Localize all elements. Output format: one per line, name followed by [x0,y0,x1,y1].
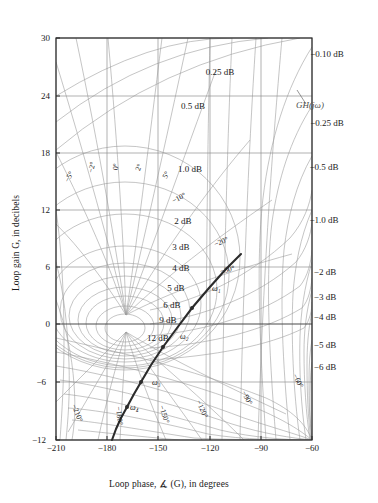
plot-background [56,38,312,440]
label-m-025db: 0.25 dB [206,67,235,77]
label-m-3db: 3 dB [172,242,189,252]
label-m-5db: 5 dB [167,283,184,293]
xtick-label-neg180: −180 [90,443,124,453]
xtick-label-neg210: −210 [39,443,73,453]
label-m-neg010db: −0.10 dB [310,49,344,59]
omega-2-dot [161,345,165,349]
xtick-label-neg120: −120 [193,443,227,453]
label-m-neg2db: −2 dB [314,267,336,277]
omega-1-dot [190,306,194,310]
label-m-4db: 4 dB [172,263,189,273]
label-omega-2: ω₂ [180,332,189,341]
label-m-2db: 2 dB [174,216,191,226]
omega-4-dot [125,405,129,409]
label-m-9db: 9 dB [159,315,176,325]
ytick-label-18: 18 [24,148,50,158]
y-axis-label: Loop gain G, in decibels [11,163,21,323]
label-m-6db: 6 dB [163,300,180,310]
label-m-05db: 0.5 dB [181,101,205,111]
label-m-neg025db: −0.25 dB [310,118,344,128]
label-m-neg6db: −6 dB [314,362,336,372]
xtick-label-neg150: −150 [141,443,175,453]
ytick-label-neg6: −6 [20,377,46,387]
label-m-neg5db: −5 dB [314,340,336,350]
label-m-neg3db: −3 dB [314,292,336,302]
label-n-0deg: 0° [111,163,121,171]
label-n-neg180deg: −180° [114,406,125,425]
omega-3-dot [139,380,143,384]
ytick-label-0: 0 [24,319,50,329]
ytick-label-12: 12 [24,205,50,215]
label-omega-4: ω₄ [130,403,139,412]
xtick-label-neg60: −60 [295,443,329,453]
label-m-neg4db: −4 dB [314,312,336,322]
label-m-neg05db: −0.5 dB [309,162,338,172]
ytick-label-30: 30 [24,33,50,43]
nichols-chart-plot: 0.25 dB 0.5 dB 1.0 dB 2 dB 3 dB 4 dB 5 d… [0,0,378,503]
label-omega-1: ω₁ [212,284,221,293]
ytick-label-24: 24 [24,91,50,101]
label-omega-3: ω₃ [152,378,161,387]
gh-curve-label: GH(jω) [296,100,324,110]
label-m-neg1db: −1.0 dB [309,215,338,225]
xtick-label-neg90: −90 [244,443,278,453]
nichols-chart-figure: 0.25 dB 0.5 dB 1.0 dB 2 dB 3 dB 4 dB 5 d… [0,0,378,503]
x-axis-label: Loop phase, ∡ (G), in degrees [109,478,229,489]
label-m-1db: 1.0 dB [178,164,202,174]
label-m-12db: 12 dB [147,333,169,343]
ytick-label-6: 6 [24,262,50,272]
